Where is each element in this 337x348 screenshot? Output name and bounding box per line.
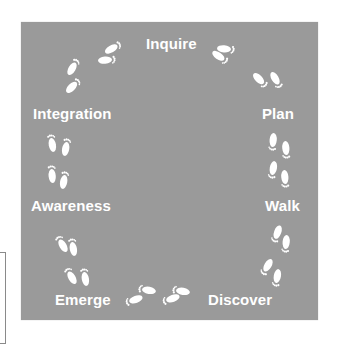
footprints-icon: [21, 22, 318, 320]
cycle-diagram-panel: Inquire Plan Walk Discover Emerge Awaren…: [21, 22, 318, 320]
adjacent-frame-border: [0, 252, 6, 344]
